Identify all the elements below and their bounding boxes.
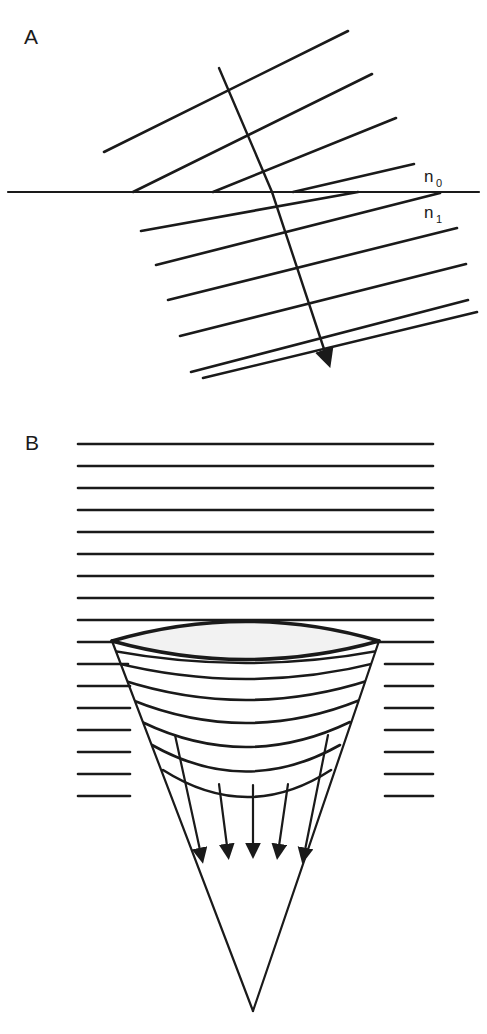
n0-label: n <box>424 167 433 186</box>
refraction-figure: A n 0 n 1 <box>0 0 487 1034</box>
panel-b-label: B <box>25 431 39 454</box>
figure-background <box>0 0 487 1034</box>
panel-a-label: A <box>24 25 38 48</box>
n1-subscript: 1 <box>436 213 442 225</box>
n1-label: n <box>424 203 433 222</box>
n0-subscript: 0 <box>436 177 442 189</box>
